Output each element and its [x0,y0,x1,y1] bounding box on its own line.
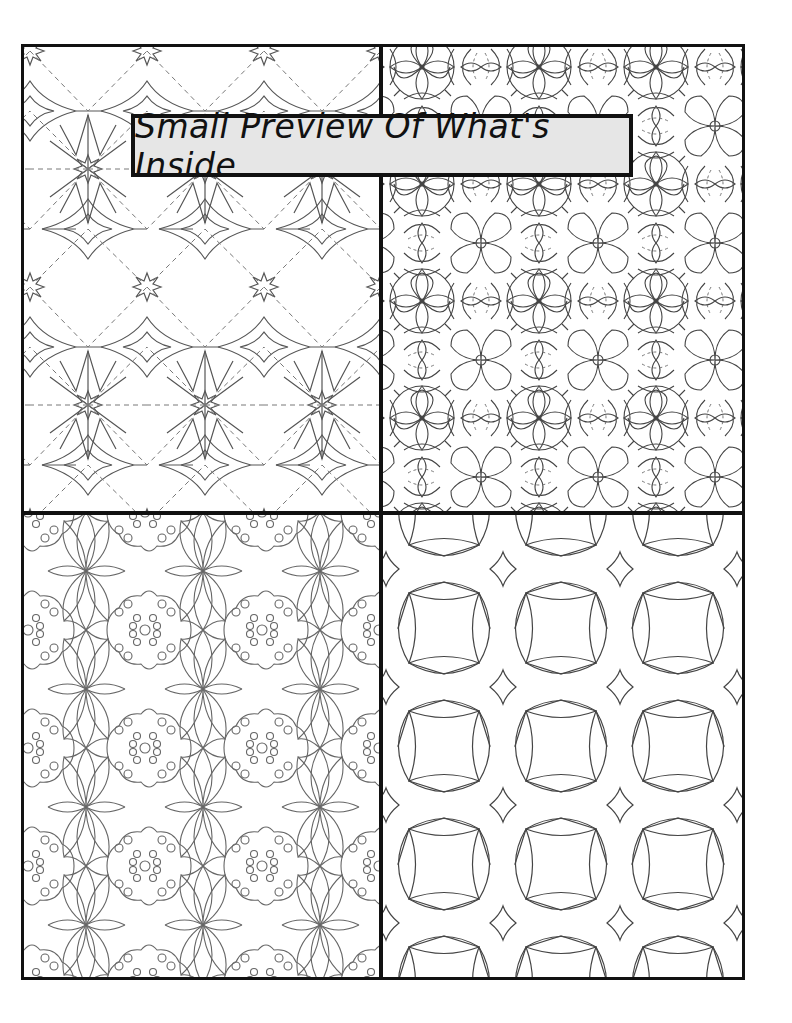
preview-bottom-left [24,515,379,977]
horizontal-divider [21,511,745,515]
circle-flower-pattern-icon [24,515,379,977]
page-title: Small Preview Of What's Inside [135,107,629,185]
curved-square-pattern-icon [383,515,742,977]
title-banner: Small Preview Of What's Inside [131,114,633,177]
preview-bottom-right [383,515,742,977]
